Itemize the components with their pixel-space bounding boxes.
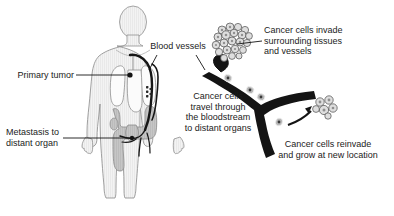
label-primary-tumor: Primary tumor <box>4 70 74 81</box>
label-metastasis: Metastasis to distant organ <box>6 127 68 148</box>
arrow-to-new-location <box>288 106 312 125</box>
label-cancer-cells-travel: Cancer cells travel through the bloodstr… <box>168 91 268 133</box>
label-cancer-cells-reinvade: Cancer cells reinvade and grow at new lo… <box>264 139 392 160</box>
label-cancer-cells-invade: Cancer cells invade surrounding tissues … <box>264 25 390 57</box>
cancer-cell-cluster-new-location <box>313 96 338 119</box>
metastasis-diagram: Primary tumor Metastasis to distant orga… <box>0 0 394 216</box>
label-blood-vessels: Blood vessels <box>140 41 216 52</box>
cancer-cell-cluster-invading <box>212 23 252 61</box>
leader-lines-blood-vessels <box>149 55 205 70</box>
leader-bv-magnified <box>196 55 205 70</box>
